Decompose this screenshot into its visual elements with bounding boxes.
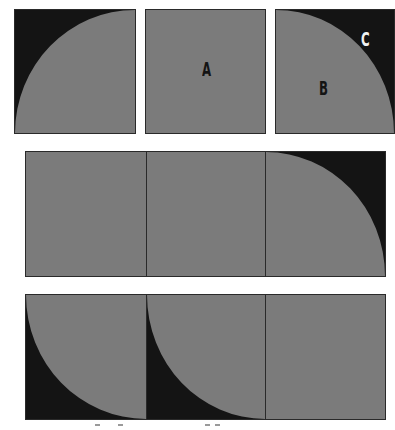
divider [146, 295, 147, 419]
label-b: B [319, 79, 328, 98]
quarter-circle-shape [15, 10, 135, 133]
tile-quarter-circle-black-top-left [14, 9, 136, 134]
caption-cutoff [0, 424, 395, 430]
divider [265, 295, 266, 419]
quarter-circle-shape [26, 295, 146, 419]
label-a: A [202, 60, 211, 79]
divider [146, 152, 147, 276]
quarter-circle-shape [276, 10, 394, 133]
middle-row [25, 151, 386, 277]
label-c: C [361, 30, 370, 49]
tile-region-a: A [145, 9, 266, 134]
quarter-circle-shape [147, 295, 265, 419]
bottom-row [25, 294, 386, 420]
tile-region-b-c: C B [275, 9, 395, 134]
quarter-circle-shape [266, 152, 385, 276]
